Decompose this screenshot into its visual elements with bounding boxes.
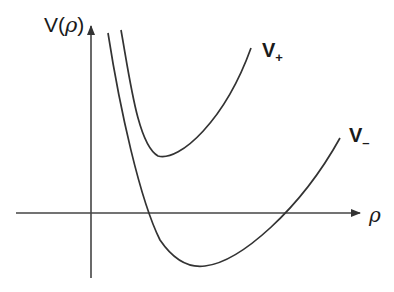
diagram-canvas: V(ρ) ρ V+ V– xyxy=(0,0,394,292)
curve-v-plus xyxy=(121,30,251,157)
x-axis-label: ρ xyxy=(368,203,381,227)
curve-v-minus xyxy=(108,33,340,266)
v-plus-label: V+ xyxy=(262,39,283,65)
y-axis-label: V(ρ) xyxy=(44,13,84,37)
v-minus-label: V– xyxy=(349,124,370,150)
